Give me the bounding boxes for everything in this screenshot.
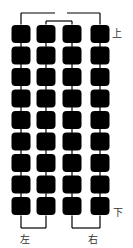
battery-cell-r9-c2 [37, 197, 56, 215]
battery-cell-r8-c1 [12, 176, 31, 194]
battery-cell-r2-c2 [37, 47, 56, 65]
battery-cell-r1-c3 [63, 25, 82, 43]
battery-cell-r6-c2 [37, 133, 56, 151]
battery-cell-r5-c4 [91, 111, 110, 129]
battery-cell-r3-c2 [37, 68, 56, 86]
battery-cell-r5-c3 [63, 111, 82, 129]
battery-cell-r1-c2 [37, 25, 56, 43]
label-bottom: 下 [113, 208, 123, 218]
battery-cell-r4-c1 [12, 90, 31, 108]
battery-cell-r2-c3 [63, 47, 82, 65]
battery-cell-r2-c4 [91, 47, 110, 65]
battery-cell-r9-c1 [12, 197, 31, 215]
battery-cell-r7-c1 [12, 154, 31, 172]
battery-cell-r7-c3 [63, 154, 82, 172]
battery-cell-r8-c3 [63, 176, 82, 194]
battery-cell-r6-c3 [63, 133, 82, 151]
battery-cell-r8-c4 [91, 176, 110, 194]
battery-cell-r1-c4 [91, 25, 110, 43]
battery-cell-r8-c2 [37, 176, 56, 194]
label-right: 右 [88, 235, 98, 245]
battery-cell-r5-c2 [37, 111, 56, 129]
battery-cell-r3-c1 [12, 68, 31, 86]
battery-cell-r2-c1 [12, 47, 31, 65]
label-top: 上 [112, 29, 122, 39]
battery-cell-r4-c3 [63, 90, 82, 108]
battery-cell-r9-c3 [63, 197, 82, 215]
battery-cell-r5-c1 [12, 111, 31, 129]
label-left: 左 [20, 235, 30, 245]
battery-cell-r3-c4 [91, 68, 110, 86]
battery-cell-r7-c4 [91, 154, 110, 172]
battery-cell-r6-c1 [12, 133, 31, 151]
battery-cell-r6-c4 [91, 133, 110, 151]
battery-cell-r4-c2 [37, 90, 56, 108]
battery-cell-r3-c3 [63, 68, 82, 86]
battery-cell-r1-c1 [12, 25, 31, 43]
battery-cell-r4-c4 [91, 90, 110, 108]
battery-cell-r9-c4 [91, 197, 110, 215]
battery-cell-r7-c2 [37, 154, 56, 172]
